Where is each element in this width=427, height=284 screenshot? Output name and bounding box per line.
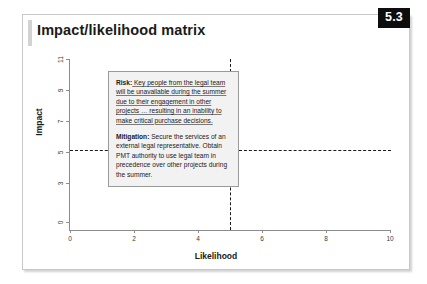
y-tick-mark-5 bbox=[66, 152, 69, 153]
mitigation-label: Mitigation: bbox=[116, 133, 149, 140]
x-tick-label-6: 6 bbox=[252, 235, 272, 242]
y-tick-label-11: 11 bbox=[57, 51, 64, 69]
x-tick-mark-4 bbox=[198, 230, 199, 233]
x-tick-label-8: 8 bbox=[316, 235, 336, 242]
figure-number-badge: 5.3 bbox=[378, 8, 410, 28]
risk-label: Risk: bbox=[116, 79, 132, 86]
y-tick-label-7: 7 bbox=[57, 113, 64, 131]
y-axis-line bbox=[69, 59, 70, 230]
x-tick-mark-0 bbox=[70, 230, 71, 233]
y-tick-label-5: 5 bbox=[57, 144, 64, 162]
x-tick-mark-10 bbox=[390, 230, 391, 233]
x-axis-title: Likelihood bbox=[23, 251, 409, 261]
y-tick-label-0: 0 bbox=[57, 214, 64, 232]
y-tick-mark-0 bbox=[66, 222, 69, 223]
x-tick-label-10: 10 bbox=[380, 235, 400, 242]
risk-paragraph: Risk: Key people from the legal team wil… bbox=[116, 78, 231, 125]
y-tick-mark-11 bbox=[66, 59, 69, 60]
x-axis-line bbox=[69, 230, 391, 231]
x-tick-mark-8 bbox=[326, 230, 327, 233]
x-tick-mark-2 bbox=[134, 230, 135, 233]
y-tick-label-9: 9 bbox=[57, 82, 64, 100]
y-axis-title: Impact bbox=[34, 92, 44, 152]
mitigation-paragraph: Mitigation: Secure the services of an ex… bbox=[116, 132, 231, 179]
risk-text: Key people from the legal team will be u… bbox=[116, 79, 226, 124]
y-tick-mark-9 bbox=[66, 90, 69, 91]
x-tick-mark-6 bbox=[262, 230, 263, 233]
title-accent-bar bbox=[28, 20, 32, 46]
risk-annotation-box: Risk: Key people from the legal team wil… bbox=[108, 71, 239, 187]
page-title: Impact/likelihood matrix bbox=[37, 22, 205, 38]
figure-card: Impact/likelihood matrix 5.3 Impact Like… bbox=[22, 14, 410, 270]
x-tick-label-2: 2 bbox=[124, 235, 144, 242]
figure-header: Impact/likelihood matrix 5.3 bbox=[23, 15, 409, 49]
y-tick-mark-3 bbox=[66, 183, 69, 184]
y-tick-label-3: 3 bbox=[57, 175, 64, 193]
y-tick-mark-7 bbox=[66, 121, 69, 122]
x-tick-label-0: 0 bbox=[60, 235, 80, 242]
x-tick-label-4: 4 bbox=[188, 235, 208, 242]
chart-plot-region: Impact Likelihood 11 9 7 5 3 0 0 2 4 6 8… bbox=[23, 45, 409, 269]
